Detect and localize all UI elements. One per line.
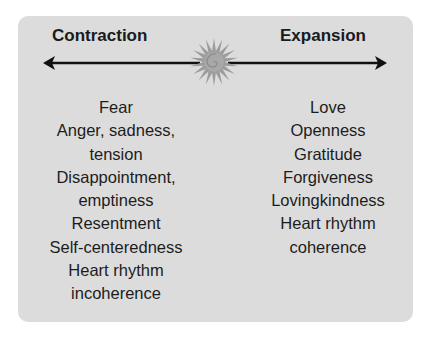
expansion-item: Love [230,96,426,119]
contraction-item: Self-centeredness [18,236,214,259]
expansion-item: Lovingkindness [230,189,426,212]
expansion-item: Heart rhythm [230,212,426,235]
expansion-list: Love Openness Gratitude Forgiveness Lovi… [230,96,426,259]
contraction-list: Fear Anger, sadness, tension Disappointm… [18,96,214,306]
expansion-item: coherence [230,236,426,259]
contraction-item: Anger, sadness, [18,119,214,142]
contraction-item: Resentment [18,212,214,235]
contraction-item: tension [18,143,214,166]
contraction-item: emptiness [18,189,214,212]
contraction-item: Heart rhythm [18,259,214,282]
contraction-item: incoherence [18,282,214,305]
contraction-item: Fear [18,96,214,119]
contraction-item: Disappointment, [18,166,214,189]
expansion-item: Gratitude [230,143,426,166]
expansion-item: Openness [230,119,426,142]
expansion-item: Forgiveness [230,166,426,189]
